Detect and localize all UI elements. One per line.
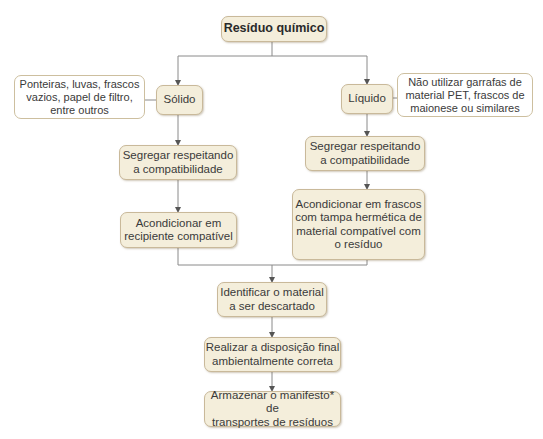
liquid-note-line: Não utilizar garrafas de	[405, 76, 524, 89]
liquid-node: Líquido	[341, 84, 393, 114]
step-line: com tampa hermética de	[295, 211, 422, 225]
solid-node: Sólido	[156, 85, 203, 115]
liquid-note-line: maionese ou similares	[405, 102, 524, 115]
step-line: material compatível com	[295, 225, 422, 239]
step-line: Acondicionar em	[124, 217, 233, 231]
step-line: a compatibilidade	[310, 154, 421, 168]
step-line: a ser descartado	[220, 300, 324, 314]
solid-note-line: vazios, papel de filtro,	[20, 91, 140, 104]
solid-label: Sólido	[164, 93, 196, 107]
step-line: Acondicionar em frascos	[295, 198, 422, 212]
step-line: Identificar o material	[220, 286, 324, 300]
liquid-step-segregar: Segregar respeitando a compatibilidade	[305, 136, 425, 171]
step-line: Realizar a disposição final	[206, 341, 340, 355]
root-label: Resíduo químico	[224, 22, 325, 36]
solid-note-line: Ponteiras, luvas, frascos	[20, 78, 140, 91]
step-line: ambientalmente correta	[206, 355, 340, 369]
connector-lines	[0, 0, 543, 439]
liquid-label: Líquido	[348, 92, 386, 106]
solid-note-line: entre outros	[20, 104, 140, 117]
solid-note: Ponteiras, luvas, frascos vazios, papel …	[14, 75, 145, 119]
final-step-identificar: Identificar o material a ser descartado	[217, 282, 327, 317]
step-line: recipiente compatível	[124, 230, 233, 244]
step-line: Segregar respeitando	[310, 140, 421, 154]
final-step-realizar: Realizar a disposição final ambientalmen…	[204, 337, 341, 372]
step-line: transportes de resíduos	[205, 416, 340, 430]
solid-step-acondicionar: Acondicionar em recipiente compatível	[120, 212, 237, 248]
root-node: Resíduo químico	[221, 16, 327, 42]
liquid-note: Não utilizar garrafas de material PET, f…	[397, 73, 533, 117]
step-line: o resíduo	[295, 238, 422, 252]
final-step-armazenar: Armazenar o manifesto* de transportes de…	[204, 391, 341, 427]
liquid-note-line: material PET, frascos de	[405, 89, 524, 102]
liquid-step-acondicionar: Acondicionar em frascos com tampa hermét…	[292, 189, 425, 260]
step-line: Segregar respeitando	[123, 149, 234, 163]
step-line: a compatibilidade	[123, 163, 234, 177]
step-line: Armazenar o manifesto* de	[205, 389, 340, 416]
solid-step-segregar: Segregar respeitando a compatibilidade	[119, 145, 237, 180]
